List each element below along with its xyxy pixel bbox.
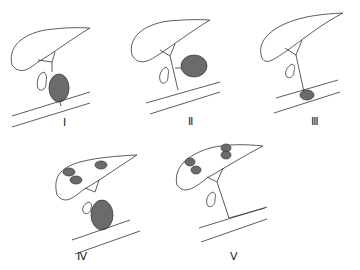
type-1-illustration xyxy=(0,0,120,135)
type-label: Ⅲ xyxy=(300,115,330,128)
gallbladder xyxy=(286,64,295,78)
cyst xyxy=(91,200,113,230)
gallbladder xyxy=(37,72,46,90)
panel-type-1: Ⅰ xyxy=(0,0,120,135)
type-5-illustration xyxy=(155,130,285,270)
liver-shape xyxy=(261,13,343,61)
cyst xyxy=(300,90,314,100)
panel-type-5: Ⅴ xyxy=(155,130,285,270)
type-4-illustration xyxy=(45,130,165,270)
duodenum xyxy=(199,207,267,242)
distal-duct xyxy=(60,102,61,106)
liver-shape xyxy=(11,28,90,71)
intrahepatic-cyst xyxy=(221,151,231,159)
intrahepatic-cyst xyxy=(185,158,195,166)
duodenum xyxy=(146,82,220,114)
intrahepatic-cyst xyxy=(191,166,201,174)
panel-type-2: Ⅱ xyxy=(120,0,240,135)
panel-type-4: Ⅳ xyxy=(45,130,165,270)
gallbladder xyxy=(160,67,169,83)
cyst xyxy=(49,74,69,102)
cyst xyxy=(181,55,207,77)
type-label: Ⅴ xyxy=(219,250,249,263)
type-label: Ⅳ xyxy=(67,250,97,263)
intrahepatic-cyst xyxy=(63,168,75,176)
intrahepatic-cyst xyxy=(70,176,82,184)
gallbladder xyxy=(83,202,92,214)
panel-type-3: Ⅲ xyxy=(240,0,360,135)
type-label: Ⅱ xyxy=(175,115,205,128)
liver-shape xyxy=(176,145,263,190)
liver-shape xyxy=(56,155,137,200)
gallbladder xyxy=(207,192,216,207)
type-label: Ⅰ xyxy=(49,116,79,129)
intrahepatic-cyst xyxy=(95,161,107,169)
